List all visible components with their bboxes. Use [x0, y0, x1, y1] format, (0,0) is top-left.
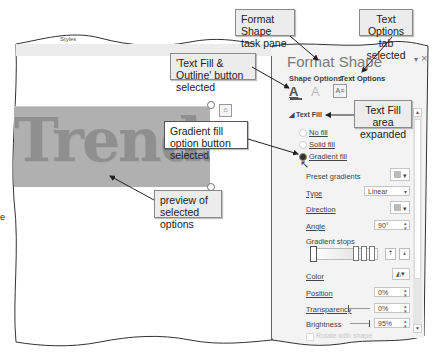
- brightness-value: 95%: [378, 320, 392, 327]
- text-fill-outline-underline: [290, 98, 302, 100]
- textbox-icon[interactable]: A≡: [333, 84, 347, 98]
- rotate-with-shape-label: Rotate with shape: [316, 332, 372, 339]
- no-fill-label[interactable]: No fill: [309, 128, 328, 137]
- brightness-slider[interactable]: [350, 323, 370, 324]
- color-picker-dropdown[interactable]: ◭▾: [392, 268, 410, 280]
- callout-preview: preview of selected options: [154, 190, 222, 218]
- preset-gradients-dropdown[interactable]: ▾: [390, 168, 410, 181]
- spinner-icon[interactable]: ▴▾: [404, 288, 407, 298]
- text-fill-outline-icon[interactable]: A: [289, 84, 301, 98]
- callout-gradient-fill: Gradient fill option button selected: [164, 121, 248, 149]
- transparency-slider-thumb[interactable]: [348, 305, 349, 312]
- spinner-icon[interactable]: ▴▾: [404, 319, 407, 329]
- angle-input[interactable]: 90°▴▾: [374, 220, 410, 230]
- close-icon[interactable]: ×: [421, 52, 427, 64]
- scroll-down-icon[interactable]: ▼: [413, 324, 422, 333]
- callout-text-options: Text Options tab selected: [359, 9, 413, 36]
- mouse-pointer-icon: ↖: [300, 158, 309, 171]
- direction-dropdown[interactable]: ▾: [390, 201, 410, 214]
- brightness-input[interactable]: 95%▴▾: [374, 318, 410, 328]
- tab-shape-options[interactable]: Shape Options: [289, 74, 342, 83]
- text-fill-section-header[interactable]: ◢ Text Fill: [289, 111, 322, 119]
- scrollbar-thumb[interactable]: [414, 119, 421, 279]
- tab-text-options[interactable]: Text Options: [340, 74, 385, 83]
- solid-fill-radio[interactable]: [299, 141, 307, 149]
- transparency-input[interactable]: 0%▴▾: [374, 303, 410, 313]
- solid-fill-label[interactable]: Solid fill: [309, 140, 335, 149]
- scroll-up-icon[interactable]: ▲: [413, 108, 422, 117]
- callout-text-fill-area: Text Fill area expanded: [354, 100, 412, 128]
- angle-label: Angle: [306, 222, 325, 231]
- gradient-stop-handle[interactable]: [361, 246, 367, 261]
- angle-value: 90°: [378, 222, 389, 229]
- resize-handle-top-right[interactable]: [207, 101, 215, 109]
- pane-scrollbar[interactable]: ▲ ▼: [413, 108, 422, 333]
- screenshot-area: Styles Trends in ⌂ e Format Shape ▾ × Sh…: [0, 0, 438, 361]
- position-label: Position: [306, 289, 333, 298]
- direction-swatch-icon: [394, 204, 401, 211]
- position-value: 0%: [378, 289, 388, 296]
- type-value: Linear: [368, 188, 387, 195]
- callout-text-fill-outline: 'Text Fill & Outline' button selected: [170, 53, 256, 80]
- gradient-stop-handle-selected[interactable]: [310, 246, 317, 262]
- text-fill-label: Text Fill: [296, 111, 322, 118]
- callout-format-shape: Format Shape task pane: [235, 9, 295, 36]
- gradient-fill-label[interactable]: Gradient fill: [309, 152, 347, 161]
- color-label: Color: [306, 272, 324, 281]
- text-effects-icon[interactable]: A: [311, 84, 320, 99]
- transparency-slider[interactable]: [348, 308, 370, 309]
- type-label: Type: [306, 189, 322, 198]
- layout-options-icon[interactable]: ⌂: [219, 104, 232, 117]
- remove-gradient-stop-icon[interactable]: ⇣: [399, 248, 410, 260]
- chevron-down-icon: ▾: [404, 187, 407, 197]
- rotate-with-shape-checkbox[interactable]: [306, 333, 314, 341]
- spinner-icon[interactable]: ▴▾: [404, 304, 407, 314]
- no-fill-radio[interactable]: [299, 129, 307, 137]
- ribbon-styles-label: Styles: [60, 36, 76, 42]
- gradient-stop-handle[interactable]: [369, 246, 375, 261]
- position-input[interactable]: 0%▴▾: [374, 287, 410, 297]
- direction-label: Direction: [306, 205, 336, 214]
- transparency-value: 0%: [378, 305, 388, 312]
- add-gradient-stop-icon[interactable]: ⇡: [385, 248, 396, 260]
- type-dropdown[interactable]: Linear▾: [364, 186, 410, 196]
- left-edge-text-fragment: e: [0, 212, 5, 222]
- gradient-stop-handle[interactable]: [353, 246, 359, 261]
- preset-gradients-label: Preset gradients: [306, 172, 361, 181]
- gradient-stops-label: Gradient stops: [306, 237, 355, 246]
- transparency-label: Transparency: [306, 305, 352, 314]
- brightness-slider-thumb[interactable]: [369, 320, 370, 327]
- pane-collapse-icon[interactable]: ▾: [414, 55, 418, 64]
- spinner-icon[interactable]: ▴▾: [404, 221, 407, 231]
- gradient-swatch-icon: [394, 171, 401, 178]
- brightness-label: Brightness: [306, 320, 341, 329]
